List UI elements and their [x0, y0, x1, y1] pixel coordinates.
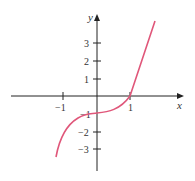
x-tick-label-neg1: −1 [55, 102, 66, 113]
y-tick-label-1: 1 [84, 74, 89, 85]
plot-area: −1 1 3 2 1 −1 −2 −3 x y [0, 0, 195, 181]
x-tick-label-1: 1 [128, 102, 133, 113]
x-axis-label: x [176, 99, 182, 111]
y-tick-label-2: 2 [84, 56, 89, 67]
function-curve [56, 21, 155, 157]
y-tick-label-3: 3 [84, 38, 89, 49]
y-axis-arrow-icon [94, 14, 100, 21]
y-tick-label-neg3: −3 [78, 144, 89, 155]
chart: −1 1 3 2 1 −1 −2 −3 x y [0, 0, 195, 181]
y-axis-label: y [87, 11, 93, 23]
y-tick-label-neg2: −2 [78, 127, 89, 138]
